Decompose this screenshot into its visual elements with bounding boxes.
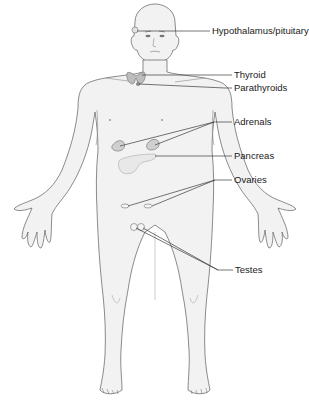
human-figure	[14, 4, 296, 394]
label-hypothalamus-pituitary: Hypothalamus/pituitary	[212, 26, 309, 36]
label-adrenals: Adrenals	[234, 117, 272, 127]
pituitary-gland	[132, 27, 138, 33]
ovary-right	[144, 204, 152, 208]
ovary-left	[121, 204, 129, 208]
head	[131, 4, 179, 63]
label-pancreas: Pancreas	[234, 151, 274, 161]
label-thyroid: Thyroid	[234, 70, 266, 80]
label-parathyroids: Parathyroids	[234, 83, 287, 93]
label-ovaries: Ovaries	[234, 175, 267, 185]
endocrine-diagram: Hypothalamus/pituitary Thyroid Parathyro…	[0, 0, 309, 406]
torso-and-arms	[14, 60, 296, 394]
body-illustration	[0, 0, 309, 406]
testis-left	[131, 224, 138, 231]
label-testes: Testes	[235, 265, 262, 275]
